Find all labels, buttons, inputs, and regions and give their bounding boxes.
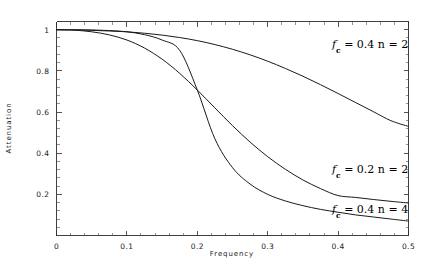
x-tick-label: 0.1 bbox=[120, 242, 133, 251]
x-axis-title: Frequency bbox=[210, 250, 254, 258]
y-tick-label: 0.2 bbox=[36, 190, 49, 199]
attenuation-line-chart: 00.10.20.30.40.50.20.40.60.81 Frequency … bbox=[0, 0, 425, 266]
y-tick-label: 0.4 bbox=[36, 149, 49, 158]
x-tick-label: 0.2 bbox=[191, 242, 204, 251]
x-tick-label: 0.4 bbox=[332, 242, 345, 251]
y-tick-label: 0.6 bbox=[36, 108, 49, 117]
x-tick-label: 0 bbox=[54, 242, 59, 251]
chart-figure: 00.10.20.30.40.50.20.40.60.81 Frequency … bbox=[0, 0, 425, 266]
y-tick-label: 1 bbox=[44, 26, 49, 35]
x-tick-label: 0.5 bbox=[402, 242, 415, 251]
y-axis-title: Attenuation bbox=[5, 103, 13, 154]
x-tick-label: 0.3 bbox=[261, 242, 274, 251]
y-tick-label: 0.8 bbox=[36, 67, 49, 76]
